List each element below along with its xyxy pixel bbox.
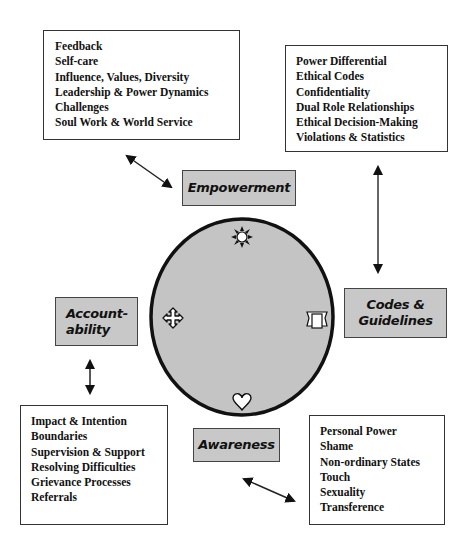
topic-item: Personal Power [320,424,444,439]
topic-item: Influence, Values, Diversity [55,70,239,85]
topic-item: Transference [320,500,444,515]
topic-item: Feedback [55,39,239,54]
topic-item: Challenges [55,100,239,115]
topic-item: Impact & Intention [31,414,167,429]
codes-guidelines-label: Codes & Guidelines [344,288,447,338]
sun-icon [231,226,253,248]
topic-item: Touch [320,470,444,485]
empowerment-label: Empowerment [182,170,296,206]
topic-item: Supervision & Support [31,445,167,460]
topic-item: Ethical Codes [296,69,447,84]
topic-item: Referrals [31,490,167,505]
accountability-label-line1: Account- [66,306,128,322]
topic-item: Leadership & Power Dynamics [55,85,239,100]
accountability-label: Account- ability [55,297,138,346]
awareness-label: Awareness [193,428,280,462]
codes-topics-box: Power Differential Ethical Codes Confide… [285,45,448,152]
topic-item: Non-ordinary States [320,455,444,470]
topic-item: Resolving Difficulties [31,460,167,475]
accountability-topics-box: Impact & Intention Boundaries Supervisio… [20,405,168,525]
codes-label-line1: Codes & [366,297,424,313]
topic-item: Dual Role Relationships [296,100,447,115]
topic-item: Soul Work & World Service [55,115,239,130]
topic-item: Boundaries [31,429,167,444]
empowerment-label-text: Empowerment [188,180,290,196]
topic-item: Self-care [55,54,239,69]
codes-label-line2: Guidelines [358,313,432,329]
awareness-label-text: Awareness [198,437,274,453]
empowerment-connector-arrow [127,156,171,187]
awareness-topics-box: Personal Power Shame Non-ordinary States… [309,415,445,525]
topic-item: Violations & Statistics [296,130,447,145]
topic-item: Power Differential [296,54,447,69]
accountability-label-line2: ability [66,322,110,338]
topic-item: Confidentiality [296,85,447,100]
topic-item: Grievance Processes [31,475,167,490]
topic-item: Sexuality [320,485,444,500]
awareness-connector-arrow [244,479,294,501]
empowerment-topics-box: Feedback Self-care Influence, Values, Di… [43,30,240,140]
scroll-icon [307,312,327,328]
topic-item: Shame [320,439,444,454]
topic-item: Ethical Decision-Making [296,115,447,130]
